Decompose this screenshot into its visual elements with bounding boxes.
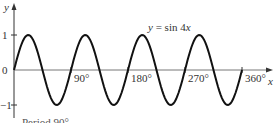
sine-chart (0, 0, 276, 123)
x-tick-label-180: 180° (131, 73, 152, 84)
x-axis-arrow-icon (266, 68, 273, 73)
y-axis-label: y (4, 2, 9, 13)
footer-note: Period 90° (22, 117, 69, 123)
y-tick-label-1: 1 (2, 30, 8, 41)
y-tick-label-0: 0 (2, 65, 8, 76)
x-axis-label: x (268, 76, 273, 87)
equation-annotation: y = sin 4x (148, 22, 191, 33)
x-tick-label-360: 360° (245, 73, 266, 84)
y-axis-arrow-icon (12, 3, 17, 10)
x-tick-label-90: 90° (74, 73, 89, 84)
x-tick-label-270: 270° (188, 73, 209, 84)
y-tick-label-neg1: −1 (0, 100, 12, 111)
